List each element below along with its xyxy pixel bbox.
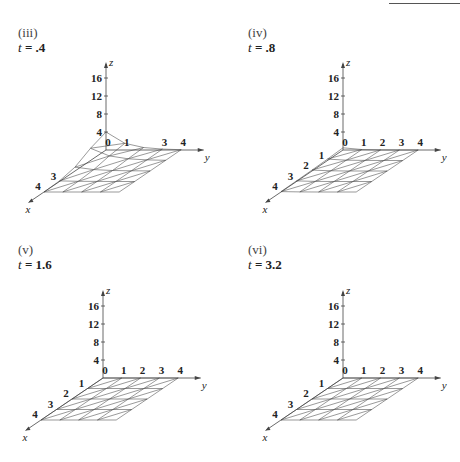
panel-vi: (vi) t = 3.2 481216012341234zyx <box>230 231 460 462</box>
svg-text:4: 4 <box>272 180 278 192</box>
svg-text:4: 4 <box>334 354 340 366</box>
svg-text:2: 2 <box>303 159 309 171</box>
svg-text:8: 8 <box>94 336 100 348</box>
svg-text:3: 3 <box>51 170 57 182</box>
svg-text:4: 4 <box>272 408 278 420</box>
panel-v: (v) t = 1.6 481216012341234zyx <box>0 231 230 462</box>
svg-text:16: 16 <box>328 72 340 84</box>
svg-text:3: 3 <box>399 364 405 376</box>
svg-text:2: 2 <box>380 136 386 148</box>
svg-text:12: 12 <box>328 90 340 102</box>
svg-text:y: y <box>441 379 447 391</box>
surface-plot: 481216012341234zyx <box>230 0 460 231</box>
svg-text:12: 12 <box>328 318 340 330</box>
svg-text:y: y <box>201 379 207 391</box>
svg-text:1: 1 <box>121 364 127 376</box>
svg-text:2: 2 <box>140 364 146 376</box>
svg-text:2: 2 <box>303 387 309 399</box>
svg-text:1: 1 <box>361 364 367 376</box>
svg-text:8: 8 <box>334 108 340 120</box>
svg-text:3: 3 <box>162 136 168 148</box>
svg-text:x: x <box>22 431 28 443</box>
svg-text:0: 0 <box>102 364 108 376</box>
svg-text:z: z <box>108 56 114 68</box>
surface-plot: 481216012341234zyx <box>230 231 460 462</box>
svg-text:16: 16 <box>328 300 340 312</box>
panel-iii: (iii) t = .4 481216013434zyx <box>0 0 230 231</box>
svg-text:4: 4 <box>94 354 100 366</box>
svg-text:4: 4 <box>97 126 103 138</box>
svg-text:16: 16 <box>91 72 103 84</box>
svg-text:x: x <box>262 203 268 215</box>
svg-text:3: 3 <box>159 364 165 376</box>
svg-text:12: 12 <box>88 318 100 330</box>
svg-text:1: 1 <box>319 377 325 389</box>
svg-text:0: 0 <box>342 136 348 148</box>
svg-text:x: x <box>262 431 268 443</box>
svg-text:1: 1 <box>79 377 85 389</box>
svg-text:z: z <box>105 284 111 296</box>
svg-text:1: 1 <box>361 136 367 148</box>
svg-text:4: 4 <box>417 136 423 148</box>
svg-text:4: 4 <box>417 364 423 376</box>
svg-text:0: 0 <box>105 136 111 148</box>
svg-text:3: 3 <box>399 136 405 148</box>
svg-text:16: 16 <box>88 300 100 312</box>
svg-text:1: 1 <box>319 149 325 161</box>
svg-text:4: 4 <box>334 126 340 138</box>
svg-text:4: 4 <box>180 136 186 148</box>
svg-text:8: 8 <box>334 336 340 348</box>
svg-text:3: 3 <box>288 170 294 182</box>
svg-text:2: 2 <box>63 387 69 399</box>
surface-plot: 481216013434zyx <box>0 0 230 231</box>
svg-text:3: 3 <box>288 398 294 410</box>
svg-text:x: x <box>25 203 31 215</box>
svg-text:4: 4 <box>32 408 38 420</box>
svg-text:z: z <box>345 284 351 296</box>
svg-text:0: 0 <box>342 364 348 376</box>
svg-text:2: 2 <box>380 364 386 376</box>
svg-text:4: 4 <box>35 180 41 192</box>
svg-text:4: 4 <box>177 364 183 376</box>
svg-text:1: 1 <box>124 136 130 148</box>
surface-plot: 481216012341234zyx <box>0 231 230 462</box>
svg-text:y: y <box>441 151 447 163</box>
svg-text:12: 12 <box>91 90 103 102</box>
svg-text:z: z <box>345 56 351 68</box>
panel-iv: (iv) t = .8 481216012341234zyx <box>230 0 460 231</box>
svg-text:8: 8 <box>97 108 103 120</box>
svg-text:y: y <box>204 151 210 163</box>
svg-text:3: 3 <box>48 398 54 410</box>
